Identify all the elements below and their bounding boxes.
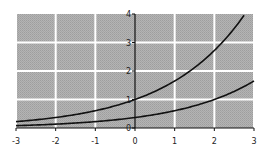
x-tick-label: -1 <box>91 137 99 146</box>
x-tick-label: 0 <box>132 137 137 146</box>
x-tick-label: -3 <box>12 137 20 146</box>
y-tick-label: 2 <box>126 67 131 76</box>
y-tick-label: 3 <box>126 39 131 48</box>
x-tick-label: 1 <box>172 137 177 146</box>
x-tick-label: 3 <box>251 137 256 146</box>
x-tick-label: 2 <box>212 137 217 146</box>
y-tick-label: 0 <box>126 124 131 133</box>
y-tick-label: 4 <box>126 10 131 19</box>
x-tick-label: -2 <box>52 137 60 146</box>
exponential-chart: -3-2-10123 01234 <box>0 0 271 155</box>
x-tick-labels: -3-2-10123 <box>12 137 257 146</box>
y-tick-label: 1 <box>126 96 131 105</box>
